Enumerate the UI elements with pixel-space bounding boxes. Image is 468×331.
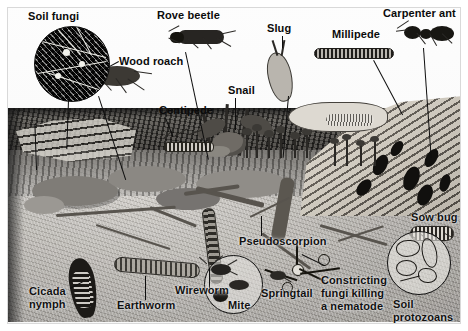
soil-organisms-illustration: Soil fungi Rove beetle Slug Millipede Ca… — [0, 0, 468, 331]
illustration-frame — [0, 0, 468, 331]
